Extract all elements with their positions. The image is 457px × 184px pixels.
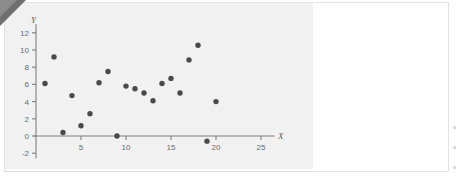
data-point	[132, 86, 137, 91]
data-point	[159, 81, 164, 86]
y-axis-label: Y	[31, 15, 37, 25]
x-tick-label: 15	[167, 143, 176, 152]
y-tick-label: 12	[20, 29, 29, 38]
data-point	[69, 93, 74, 98]
data-points-group	[42, 43, 218, 144]
edge-artifact-mark	[453, 146, 456, 149]
data-point	[204, 138, 209, 143]
data-point	[105, 69, 110, 74]
y-tick-label: 6	[25, 80, 30, 89]
axes-group	[34, 24, 275, 158]
x-tick-label: 5	[79, 143, 84, 152]
data-point	[60, 130, 65, 135]
data-point	[87, 111, 92, 116]
data-point	[123, 83, 128, 88]
data-point	[141, 90, 146, 95]
edge-artifact-mark	[453, 166, 456, 169]
data-point	[213, 99, 218, 104]
y-tick-label: 8	[25, 63, 30, 72]
data-point	[168, 76, 173, 81]
y-tick-label: 4	[25, 98, 30, 107]
data-point	[114, 133, 119, 138]
y-tick-label: -2	[22, 149, 30, 158]
screenshot-root: 510152025-2024681012 X Y	[0, 0, 457, 184]
x-tick-label: 25	[257, 143, 266, 152]
scatter-plot: 510152025-2024681012 X Y	[0, 0, 457, 184]
data-point	[78, 123, 83, 128]
data-point	[42, 81, 47, 86]
x-tick-label: 20	[212, 143, 221, 152]
data-point	[51, 54, 56, 59]
x-tick-label: 10	[122, 143, 131, 152]
y-tick-label: 0	[25, 132, 30, 141]
data-point	[186, 57, 191, 62]
y-tick-label: 2	[25, 115, 30, 124]
data-point	[150, 98, 155, 103]
data-point	[96, 80, 101, 85]
data-point	[195, 43, 200, 48]
x-axis-label: X	[277, 131, 284, 141]
edge-artifact-mark	[453, 126, 456, 129]
y-tick-label: 10	[20, 46, 29, 55]
data-point	[177, 90, 182, 95]
